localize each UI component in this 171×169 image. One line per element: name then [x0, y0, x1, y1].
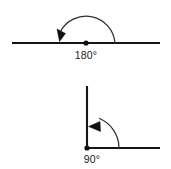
- angle-diagram-canvas: 180° 90°: [0, 0, 171, 169]
- straight-angle-label: 180°: [75, 49, 98, 61]
- right-angle-label: 90°: [84, 153, 100, 165]
- straight-angle-diagram: 180°: [12, 16, 160, 61]
- right-angle-vertex-dot: [84, 145, 89, 150]
- straight-angle-vertex-dot: [83, 40, 88, 45]
- right-angle-diagram: 90°: [84, 86, 160, 165]
- right-angle-arc: [100, 119, 120, 149]
- right-angle-arrowhead-icon: [89, 122, 101, 132]
- straight-angle-arc: [61, 16, 116, 43]
- angle-diagram-figure: 180° 90°: [0, 0, 171, 169]
